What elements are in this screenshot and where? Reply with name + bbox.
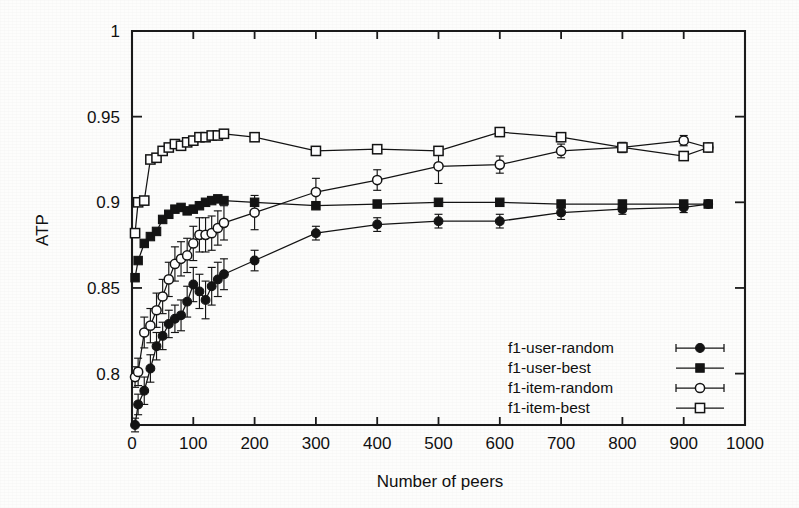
legend-marker [696,344,705,353]
data-point [618,143,627,152]
x-tick-label: 500 [424,434,452,453]
data-point [220,196,228,204]
x-tick-label: 100 [179,434,207,453]
data-point [134,256,142,264]
data-point [134,400,143,409]
legend-label: f1-user-best [508,359,591,376]
data-series-layer [130,127,712,431]
x-tick-label: 700 [547,434,575,453]
x-axis-title: Number of peers [377,472,504,491]
x-tick-label: 1000 [726,434,764,453]
data-point [496,198,504,206]
x-tick-label: 400 [363,434,391,453]
data-point [373,145,382,154]
y-tick-label: 0.95 [87,108,120,127]
y-axis-tick-labels: 0.80.850.90.951 [87,22,120,384]
data-point [189,239,198,248]
y-tick-label: 1 [111,22,120,41]
data-point [164,275,173,284]
legend-label: f1-user-random [508,339,614,356]
data-point [495,127,504,136]
x-tick-label: 900 [670,434,698,453]
data-point [373,200,381,208]
data-point [434,217,443,226]
data-point [679,151,688,160]
data-point [312,229,321,238]
legend-entry-f1-user-best: f1-user-best [508,359,724,376]
data-point [219,218,228,227]
x-tick-label: 0 [127,434,136,453]
data-point [679,136,688,145]
data-point [434,162,443,171]
data-point [557,200,565,208]
data-point [618,200,626,208]
data-point [134,367,143,376]
data-point [250,256,259,265]
data-point [434,198,442,206]
x-tick-label: 800 [608,434,636,453]
data-point [373,175,382,184]
figure-canvas: 01002003004005006007008009001000 0.80.85… [0,0,799,508]
data-point [250,133,259,142]
y-tick-label: 0.8 [96,365,120,384]
x-tick-label: 200 [240,434,268,453]
atp-vs-peers-chart: 01002003004005006007008009001000 0.80.85… [0,0,799,508]
data-point [704,200,712,208]
legend-label: f1-item-best [508,399,591,416]
x-axis-tick-labels: 01002003004005006007008009001000 [127,434,764,453]
data-point [495,160,504,169]
data-point [680,200,688,208]
data-point [183,251,192,260]
legend-marker [696,364,704,372]
legend-entry-f1-item-random: f1-item-random [508,379,724,396]
data-point [557,133,566,142]
data-point [434,146,443,155]
chart-legend: f1-user-randomf1-user-bestf1-item-random… [508,339,724,416]
data-point [158,332,167,341]
data-point [130,229,139,238]
data-point [146,364,155,373]
data-point [220,270,229,279]
x-tick-label: 300 [302,434,330,453]
data-point [183,297,192,306]
data-point [195,287,204,296]
data-point [131,273,139,281]
data-point [152,227,160,235]
legend-entry-f1-item-best: f1-item-best [508,399,724,416]
data-point [158,292,167,301]
data-point [152,306,161,315]
data-point [146,321,155,330]
x-tick-label: 600 [486,434,514,453]
y-tick-label: 0.85 [87,279,120,298]
data-point [177,311,186,320]
data-point [140,196,149,205]
legend-marker [695,403,704,412]
data-point [219,129,228,138]
data-point [250,208,259,217]
legend-entry-f1-user-random: f1-user-random [508,339,724,356]
series-f1-item-random [130,135,712,387]
data-point [495,217,504,226]
series-line [135,204,708,425]
data-point [311,187,320,196]
data-point [704,143,713,152]
data-point [201,296,210,305]
data-point [311,146,320,155]
data-point [131,421,140,430]
data-point [373,220,382,229]
data-point [557,146,566,155]
data-point [140,386,149,395]
y-tick-label: 0.9 [96,193,120,212]
legend-marker [695,383,704,392]
y-axis-title: ATP [33,214,52,246]
legend-label: f1-item-random [508,379,613,396]
data-point [557,208,566,217]
